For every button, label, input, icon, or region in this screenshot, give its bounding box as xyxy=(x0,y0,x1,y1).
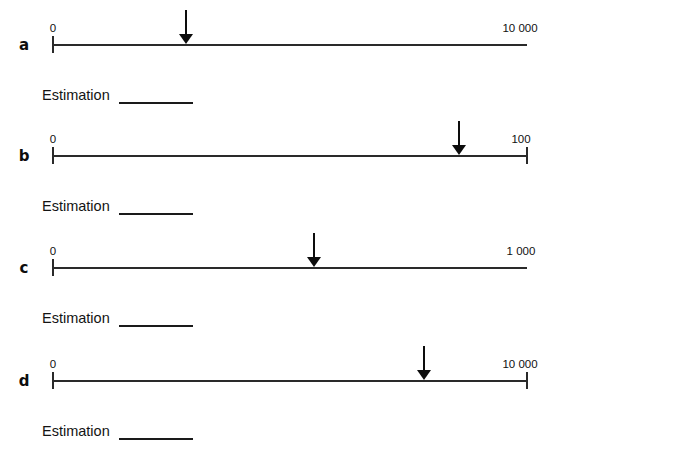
task-item-c: c 0 1 000 Estimation xyxy=(0,224,693,335)
task-item-a: a 0 10 000 Estimation xyxy=(0,0,693,111)
item-letter-a: a xyxy=(12,38,36,53)
axis-end-tick-b xyxy=(526,147,528,164)
arrow-head-c xyxy=(307,257,321,267)
estimation-answer-blank-c[interactable] xyxy=(119,325,193,327)
worksheet-sheet: a 0 10 000 Estimation b 0 100 Estimation xyxy=(0,0,693,466)
arrow-head-d xyxy=(417,370,431,380)
estimation-label-d: Estimation xyxy=(42,424,110,439)
axis-start-label-b: 0 xyxy=(50,134,56,146)
axis-end-label-a: 10 000 xyxy=(502,23,537,35)
number-line-a[interactable] xyxy=(53,44,527,46)
estimation-answer-blank-a[interactable] xyxy=(119,102,193,104)
axis-start-label-c: 0 xyxy=(50,246,56,258)
arrow-stem-c xyxy=(313,233,315,258)
item-letter-c: c xyxy=(12,261,36,276)
arrow-stem-a xyxy=(185,10,187,35)
axis-start-label-d: 0 xyxy=(50,359,56,371)
estimation-row-c: Estimation xyxy=(42,311,193,326)
estimation-answer-blank-d[interactable] xyxy=(119,438,193,440)
number-line-d[interactable] xyxy=(53,380,527,382)
task-item-d: d 0 10 000 Estimation xyxy=(0,336,693,447)
arrow-stem-b xyxy=(458,121,460,146)
task-item-b: b 0 100 Estimation xyxy=(0,111,693,222)
estimation-row-a: Estimation xyxy=(42,88,193,103)
estimation-answer-blank-b[interactable] xyxy=(119,213,193,215)
axis-end-label-c: 1 000 xyxy=(507,246,536,258)
arrow-stem-d xyxy=(423,346,425,371)
estimation-label-b: Estimation xyxy=(42,199,110,214)
axis-end-label-d: 10 000 xyxy=(502,359,537,371)
estimation-row-b: Estimation xyxy=(42,199,193,214)
axis-end-label-b: 100 xyxy=(511,134,530,146)
arrow-head-a xyxy=(179,34,193,44)
estimation-label-a: Estimation xyxy=(42,88,110,103)
arrow-head-b xyxy=(452,145,466,155)
number-line-b[interactable] xyxy=(53,155,527,157)
item-letter-d: d xyxy=(12,374,36,389)
axis-start-label-a: 0 xyxy=(50,23,56,35)
estimation-label-c: Estimation xyxy=(42,311,110,326)
item-letter-b: b xyxy=(12,149,36,164)
estimation-row-d: Estimation xyxy=(42,424,193,439)
number-line-c[interactable] xyxy=(53,267,527,269)
axis-end-tick-d xyxy=(526,372,528,389)
